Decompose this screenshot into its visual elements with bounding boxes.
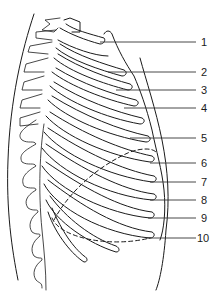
spine <box>20 18 60 290</box>
leader-lines <box>100 42 196 238</box>
label-9: 9 <box>201 213 207 224</box>
label-10: 10 <box>197 233 209 244</box>
label-1: 1 <box>201 37 207 48</box>
label-7: 7 <box>201 177 207 188</box>
upper-ribs <box>58 18 168 290</box>
label-8: 8 <box>201 195 207 206</box>
label-4: 4 <box>201 103 207 114</box>
back-outline <box>8 14 34 280</box>
rib-cage-diagram <box>0 0 215 305</box>
label-6: 6 <box>201 158 207 169</box>
label-5: 5 <box>201 133 207 144</box>
label-2: 2 <box>201 67 207 78</box>
label-3: 3 <box>201 85 207 96</box>
ribs <box>42 44 156 262</box>
pleura-outline <box>52 218 150 242</box>
